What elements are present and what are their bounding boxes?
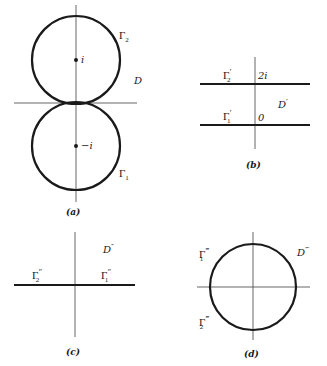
panel-b: Γ′2 Γ′1 2i 0 D′ (b) <box>200 57 310 170</box>
panel-a-label-i: i <box>81 54 84 65</box>
panel-b-label-0: 0 <box>258 112 265 123</box>
panel-d-region-d: D‴ <box>296 245 310 258</box>
panel-a-point-i <box>74 58 78 62</box>
conformal-map-figure: i −i Γ2 Γ1 D (a) Γ′2 Γ′1 2i 0 D′ (b) Γ″2… <box>0 0 327 366</box>
panel-a-point-minus-i <box>74 144 78 148</box>
panel-a: i −i Γ2 Γ1 D (a) <box>14 5 142 217</box>
panel-a-caption: (a) <box>66 207 80 217</box>
panel-d-label-gamma1: Γ‴1 <box>199 247 209 263</box>
panel-a-label-minus-i: −i <box>81 140 93 151</box>
panel-c-region-d: D″ <box>102 242 114 255</box>
panel-d-label-gamma2: Γ‴2 <box>199 315 209 331</box>
panel-b-label-2i: 2i <box>257 70 268 81</box>
panel-c-caption: (c) <box>66 347 80 357</box>
panel-b-label-gamma1: Γ′1 <box>223 109 231 125</box>
panel-d: Γ‴1 Γ‴2 D‴ (d) <box>197 232 310 359</box>
panel-a-label-gamma2: Γ2 <box>119 29 129 44</box>
panel-c-label-gamma1: Γ″1 <box>101 268 111 284</box>
panel-a-region-d: D <box>133 75 142 86</box>
panel-c: Γ″2 Γ″1 D″ (c) <box>14 232 135 357</box>
panel-d-caption: (d) <box>244 349 259 359</box>
panel-b-caption: (b) <box>246 160 261 170</box>
panel-b-label-gamma2: Γ′2 <box>223 68 231 84</box>
panel-b-region-d: D′ <box>277 97 288 110</box>
panel-c-label-gamma2: Γ″2 <box>32 268 42 284</box>
panel-a-label-gamma1: Γ1 <box>119 167 129 182</box>
